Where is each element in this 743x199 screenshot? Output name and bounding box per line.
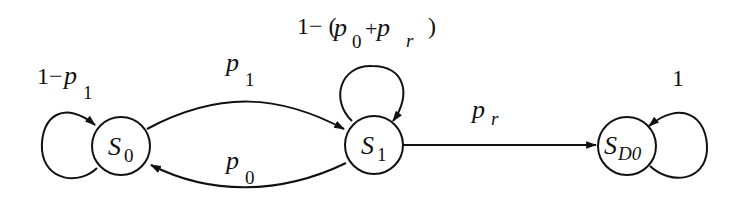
label-self-loop-s1: 1− ( p 0 + p r ): [297, 13, 436, 52]
label-s1-to-s0: p 0: [224, 146, 255, 188]
label-plus: +: [365, 16, 377, 41]
self-loop-s1: [340, 66, 403, 121]
label-text: 1− (: [297, 13, 337, 39]
state-s1: S 1: [345, 116, 403, 174]
self-loop-s0: [42, 113, 97, 179]
label-var: p: [470, 95, 485, 124]
label-s0-to-s1: p 1: [224, 48, 255, 90]
state-s0-label: S: [108, 132, 121, 161]
label-var: p: [332, 13, 347, 42]
label-self-loop-s0: 1− p 1: [37, 61, 93, 103]
label-text: ): [428, 13, 436, 39]
label-sub: r: [406, 30, 414, 51]
edge-s0-to-s1: [147, 102, 344, 129]
label-var: p: [375, 13, 390, 42]
label-s1-to-sd0: p r: [470, 95, 499, 129]
label-text: 1: [672, 65, 684, 91]
state-sd0-subscript: D0: [617, 143, 642, 164]
state-sd0: S D0: [598, 117, 656, 175]
label-sub: 1: [83, 82, 93, 103]
label-sub: 0: [245, 167, 255, 188]
state-sd0-label: S: [604, 131, 617, 160]
state-diagram: S 0 S 1 S D0 1− p 1 p 1 p 0 1− ( p 0 + p…: [0, 0, 743, 199]
label-var: p: [62, 61, 77, 90]
state-s1-subscript: 1: [377, 144, 387, 165]
label-var: p: [224, 146, 239, 175]
self-loop-sd0: [649, 113, 707, 178]
label-self-loop-sd0: 1: [672, 65, 684, 91]
label-sub: r: [491, 108, 499, 129]
state-s1-label: S: [361, 131, 374, 160]
state-s0: S 0: [92, 117, 150, 175]
label-sub: 1: [245, 69, 255, 90]
label-var: p: [224, 48, 239, 77]
state-s0-subscript: 0: [124, 145, 134, 166]
label-sub: 0: [352, 31, 362, 52]
label-text: 1−: [37, 63, 63, 89]
